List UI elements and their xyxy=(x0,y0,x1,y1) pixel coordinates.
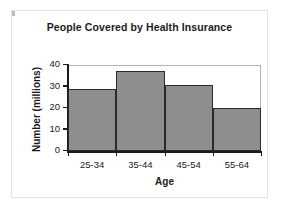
y-axis-title-text: Number (millions) xyxy=(31,66,42,151)
x-axis-category-label: 55-64 xyxy=(225,160,249,170)
y-axis-tick-label: 20 xyxy=(49,103,60,113)
y-axis-tick-label: 40 xyxy=(49,60,60,70)
y-axis-tick: 40 xyxy=(63,64,68,65)
y-axis-title: Number (millions) xyxy=(28,61,44,157)
bar-45-54 xyxy=(165,85,213,151)
x-axis-category-label: 45-54 xyxy=(176,160,200,170)
x-axis-tick xyxy=(261,151,262,156)
x-axis-category-label: 25-34 xyxy=(80,160,104,170)
chart-title: People Covered by Health Insurance xyxy=(12,21,267,33)
x-axis-tick xyxy=(213,151,214,156)
x-axis-tick xyxy=(165,151,166,156)
y-axis-tick-label: 0 xyxy=(55,146,60,156)
bar-25-34 xyxy=(68,89,116,151)
x-axis-tick xyxy=(68,151,69,156)
y-axis-tick: 30 xyxy=(63,85,68,86)
y-axis-tick-label: 10 xyxy=(49,124,60,134)
corner-artifact xyxy=(12,11,15,16)
x-axis-category-label: 35-44 xyxy=(128,160,152,170)
bar-35-44 xyxy=(116,71,164,151)
x-axis-title: Age xyxy=(68,176,261,187)
bar-55-64 xyxy=(213,108,261,151)
chart-card: People Covered by Health Insurance Numbe… xyxy=(11,10,268,198)
y-axis-tick-label: 30 xyxy=(49,81,60,91)
x-axis-tick xyxy=(116,151,117,156)
plot-area: 010203040 25-3435-4445-5455-64 xyxy=(68,65,261,151)
